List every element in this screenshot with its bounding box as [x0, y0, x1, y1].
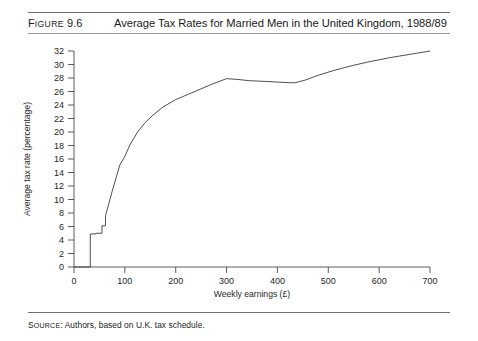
y-axis-tick-labels: 02468101214161820222426283032: [54, 46, 64, 272]
x-tick-label: 400: [270, 276, 285, 286]
x-axis-tick-labels: 0100200300400500600700: [71, 276, 437, 286]
source-text: : Authors, based on U.K. tax schedule.: [60, 320, 204, 330]
y-tick-label: 26: [54, 87, 64, 97]
x-tick-label: 700: [422, 276, 437, 286]
x-axis-group: 0100200300400500600700 Weekly earnings (…: [71, 267, 437, 299]
tax-rate-curve: [74, 51, 430, 267]
y-tick-label: 14: [54, 168, 64, 178]
y-tick-label: 0: [59, 262, 64, 272]
source-smallcaps: OURCE: [34, 322, 61, 329]
chart-plot-area: 02468101214161820222426283032 Average ta…: [18, 38, 458, 306]
x-tick-label: 600: [372, 276, 387, 286]
y-tick-label: 16: [54, 154, 64, 164]
x-tick-label: 100: [117, 276, 132, 286]
y-tick-label: 32: [54, 46, 64, 56]
y-tick-label: 20: [54, 127, 64, 137]
header-rule-bottom: [28, 33, 450, 34]
chart-svg: 02468101214161820222426283032 Average ta…: [18, 38, 458, 306]
figure-label-initial: F: [28, 17, 35, 29]
figure-label-number: 9.6: [64, 17, 83, 29]
y-tick-label: 6: [59, 222, 64, 232]
figure-header: FIGURE 9.6 Average Tax Rates for Married…: [28, 16, 450, 32]
header-rule-top: [28, 12, 450, 13]
y-axis-title: Average tax rate (percentage): [22, 102, 32, 216]
figure-label-smallcaps: IGURE: [35, 19, 64, 29]
y-tick-label: 2: [59, 249, 64, 259]
figure-label: FIGURE 9.6: [28, 17, 83, 29]
y-tick-label: 22: [54, 114, 64, 124]
y-axis-ticks: [68, 51, 74, 267]
y-tick-label: 10: [54, 195, 64, 205]
source-note: SOURCE: Authors, based on U.K. tax sched…: [28, 320, 205, 330]
y-axis-group: 02468101214161820222426283032 Average ta…: [22, 46, 74, 272]
y-tick-label: 30: [54, 60, 64, 70]
x-tick-label: 500: [321, 276, 336, 286]
y-tick-label: 4: [59, 235, 64, 245]
footer-rule: [28, 312, 450, 313]
y-tick-label: 28: [54, 73, 64, 83]
y-tick-label: 8: [59, 208, 64, 218]
x-axis-title: Weekly earnings (£): [214, 289, 290, 299]
y-tick-label: 18: [54, 141, 64, 151]
figure-container: FIGURE 9.6 Average Tax Rates for Married…: [0, 0, 478, 341]
x-tick-label: 300: [219, 276, 234, 286]
x-tick-label: 200: [168, 276, 183, 286]
x-tick-label: 0: [71, 276, 76, 286]
figure-title: Average Tax Rates for Married Men in the…: [114, 17, 447, 29]
x-axis-ticks: [74, 267, 430, 273]
y-tick-label: 24: [54, 100, 64, 110]
y-tick-label: 12: [54, 181, 64, 191]
